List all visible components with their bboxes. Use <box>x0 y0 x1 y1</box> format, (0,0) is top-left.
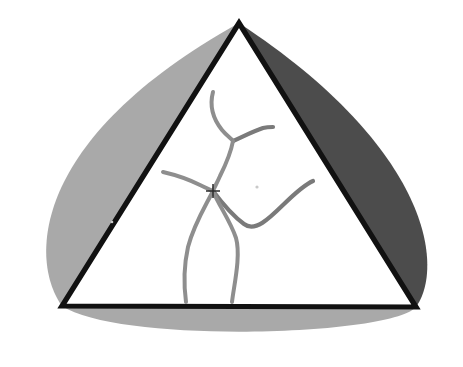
speck-right-of-marker <box>255 185 258 188</box>
speck-left-mid <box>111 221 114 224</box>
figure-root: Triangular indentation with three curved… <box>0 0 463 367</box>
triangle-lobe-figure <box>0 0 463 367</box>
